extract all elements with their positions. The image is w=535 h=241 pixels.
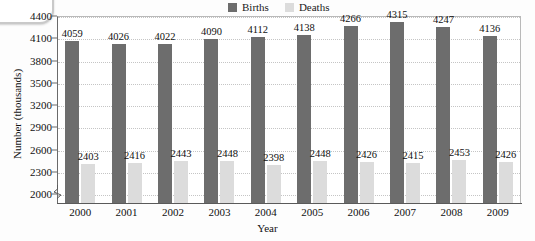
x-tick-label-2001: 2001 [116, 206, 138, 218]
bar-deaths-2005[interactable] [313, 161, 327, 203]
bar-births-2001[interactable] [112, 44, 126, 203]
legend-swatch-icon [285, 3, 294, 12]
bar-deaths-2007[interactable] [406, 163, 420, 203]
bar-deaths-2001[interactable] [128, 163, 142, 203]
bar-births-2008[interactable] [436, 27, 450, 203]
y-tick-label: 2000 [0, 188, 52, 200]
bar-births-2003[interactable] [204, 39, 218, 203]
y-tick-label: 2600 [0, 144, 52, 156]
bar-value-label: 4022 [155, 31, 176, 42]
x-tick-label-2008: 2008 [440, 206, 462, 218]
bar-value-label: 4026 [108, 31, 129, 42]
bar-value-label: 2416 [124, 150, 145, 161]
x-tick-label-2009: 2009 [487, 206, 509, 218]
x-tick-label-2005: 2005 [301, 206, 323, 218]
y-tick-label: 4100 [0, 32, 52, 44]
y-tick-label: 3800 [0, 55, 52, 67]
y-tick-label: 2300 [0, 166, 52, 178]
bar-deaths-2004[interactable] [267, 165, 281, 203]
chart-legend: BirthsDeaths [228, 2, 329, 13]
gridline [58, 106, 520, 107]
bar-value-label: 4090 [201, 26, 222, 37]
bar-deaths-2000[interactable] [81, 164, 95, 203]
y-tick-label: 4400 [0, 10, 52, 22]
axis-break-icon [53, 185, 62, 199]
bar-value-label: 2426 [356, 149, 377, 160]
bar-deaths-2008[interactable] [452, 160, 466, 203]
gridline [58, 128, 520, 129]
bar-value-label: 4247 [433, 14, 454, 25]
y-tick-mark [52, 38, 57, 39]
legend-item-deaths[interactable]: Deaths [285, 2, 330, 13]
legend-label: Deaths [299, 2, 330, 13]
bar-deaths-2002[interactable] [174, 161, 188, 203]
bar-value-label: 4266 [340, 13, 361, 24]
bar-births-2002[interactable] [158, 44, 172, 203]
bar-value-label: 2448 [310, 148, 331, 159]
bar-value-label: 2403 [78, 151, 99, 162]
bar-births-2000[interactable] [65, 41, 79, 203]
gridline [58, 62, 520, 63]
y-tick-label: 3200 [0, 99, 52, 111]
y-tick-mark [52, 105, 57, 106]
chart-page: BirthsDeaths Number (thousands) Year 200… [0, 0, 535, 241]
y-tick-mark [52, 127, 57, 128]
y-tick-mark [52, 194, 57, 195]
y-tick-mark [52, 149, 57, 150]
legend-label: Births [242, 2, 269, 13]
x-tick-label-2006: 2006 [348, 206, 370, 218]
y-tick-mark [52, 82, 57, 83]
bar-births-2007[interactable] [390, 22, 404, 203]
bar-deaths-2006[interactable] [360, 162, 374, 203]
x-tick-label-2004: 2004 [255, 206, 277, 218]
bar-value-label: 4112 [247, 24, 268, 35]
y-tick-mark [52, 171, 57, 172]
x-axis-title: Year [0, 222, 535, 234]
bar-births-2005[interactable] [297, 35, 311, 203]
bar-value-label: 4136 [479, 23, 500, 34]
legend-swatch-icon [228, 3, 237, 12]
bar-value-label: 2426 [495, 149, 516, 160]
y-tick-label: 3500 [0, 77, 52, 89]
bar-births-2004[interactable] [251, 37, 265, 203]
x-tick-label-2002: 2002 [162, 206, 184, 218]
y-tick-mark [52, 60, 57, 61]
plot-area [57, 16, 521, 203]
gridline [58, 84, 520, 85]
bar-deaths-2009[interactable] [499, 162, 513, 203]
bar-births-2009[interactable] [483, 36, 497, 203]
bar-value-label: 2448 [217, 148, 238, 159]
bar-value-label: 4138 [294, 22, 315, 33]
bar-births-2006[interactable] [344, 26, 358, 203]
bar-value-label: 2398 [263, 152, 284, 163]
bar-value-label: 2453 [449, 147, 470, 158]
bar-value-label: 2443 [171, 148, 192, 159]
bar-value-label: 4059 [62, 28, 83, 39]
bar-deaths-2003[interactable] [220, 161, 234, 203]
x-tick-label-2000: 2000 [69, 206, 91, 218]
bar-value-label: 4315 [387, 9, 408, 20]
x-tick-label-2003: 2003 [208, 206, 230, 218]
x-axis-line [57, 203, 522, 204]
bar-value-label: 2415 [403, 150, 424, 161]
x-tick-label-2007: 2007 [394, 206, 416, 218]
y-tick-mark [52, 16, 57, 17]
legend-item-births[interactable]: Births [228, 2, 269, 13]
y-tick-label: 2900 [0, 121, 52, 133]
